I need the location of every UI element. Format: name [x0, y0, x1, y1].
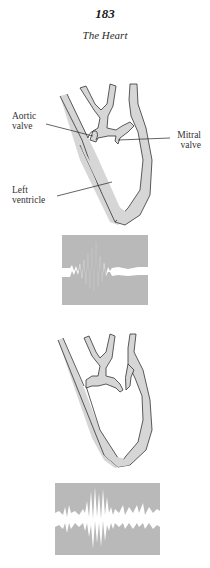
label-left-ventricle-line2: ventricle	[12, 195, 45, 205]
heart-sound-waveform-1	[62, 235, 148, 305]
heart-sound-waveform-2	[55, 483, 160, 555]
label-aortic-valve-line2: valve	[12, 121, 36, 131]
waveform-trace-1	[62, 235, 148, 305]
label-left-ventricle-line1: Left	[12, 185, 45, 195]
label-mitral-valve-line2: valve	[160, 140, 201, 150]
label-aortic-valve-line1: Aortic	[12, 111, 36, 121]
label-mitral-valve: Mitral valve	[160, 130, 201, 150]
label-mitral-valve-line1: Mitral	[160, 130, 201, 140]
heart-diagram-2	[0, 320, 210, 480]
label-left-ventricle: Left ventricle	[12, 185, 45, 205]
label-aortic-valve: Aortic valve	[12, 111, 36, 131]
waveform-trace-2	[55, 483, 160, 555]
